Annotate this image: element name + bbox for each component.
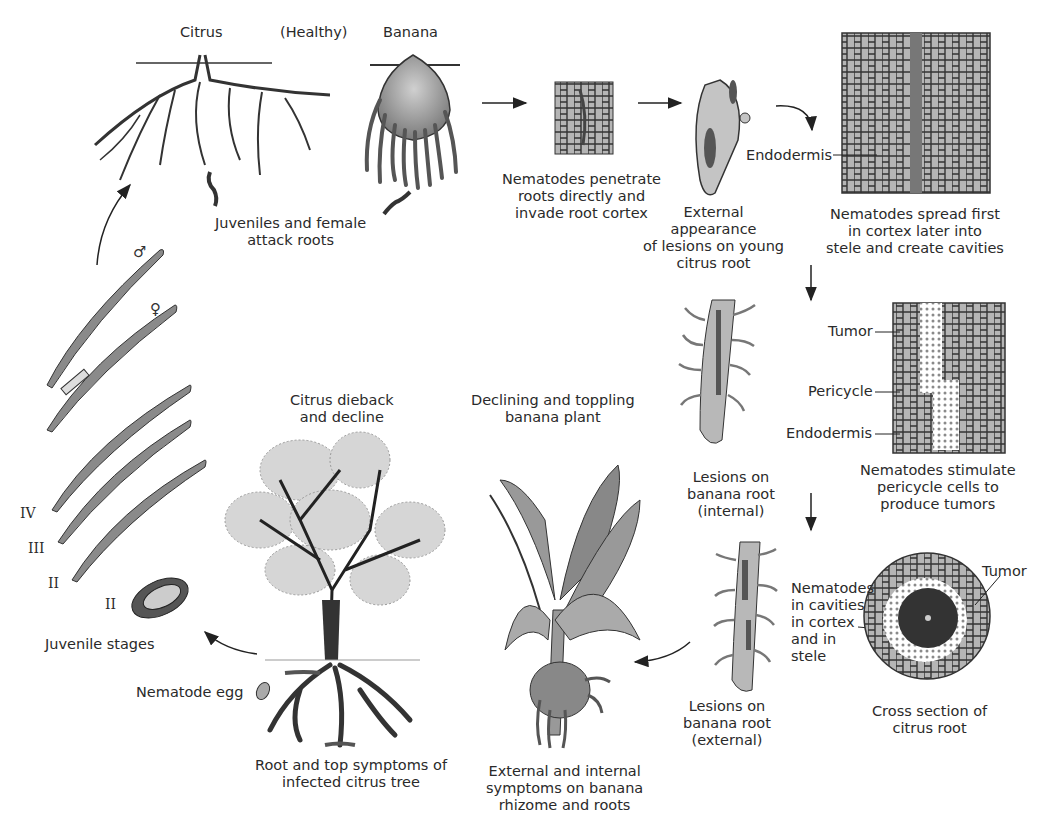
- penetrate-caption: Nematodes penetrate roots directly and i…: [502, 171, 661, 222]
- juvenile-stages-caption: Juvenile stages: [45, 636, 155, 653]
- citrus-symptoms-caption: Root and top symptoms of infected citrus…: [255, 757, 447, 791]
- external-lesion-caption: External appearance of lesions on young …: [643, 204, 784, 272]
- endodermis-label-1: Endodermis: [746, 147, 832, 164]
- healthy-citrus-roots: [95, 55, 330, 180]
- stage-ii-egg-label: II: [105, 596, 116, 612]
- nematode-egg-label: Nematode egg: [136, 684, 243, 701]
- banana-root-internal: [679, 300, 755, 443]
- juvenile-nematode: [209, 172, 217, 206]
- cavities-caption: Nematodes in cavities in cortex and in s…: [791, 580, 874, 665]
- arrow-6: [635, 642, 690, 662]
- arrow-7: [205, 632, 257, 654]
- tumor-label-2: Tumor: [982, 563, 1027, 580]
- arrow-3: [776, 106, 812, 130]
- stimulate-caption: Nematodes stimulate pericycle cells to p…: [860, 462, 1016, 513]
- stage-iv-label: IV: [20, 505, 36, 521]
- citrus-root-cross-section: [864, 553, 990, 679]
- lesion-external-caption: Lesions on banana root (external): [683, 698, 771, 749]
- male-symbol: ♂: [133, 243, 146, 261]
- root-cortex-tissue: [555, 82, 613, 154]
- stage-ii-label: II: [48, 575, 59, 591]
- healthy-banana-rhizome: [367, 55, 460, 214]
- banana-label: Banana: [383, 24, 438, 41]
- pericycle-label: Pericycle: [808, 383, 873, 400]
- nematode-egg-juvenile: [126, 570, 195, 626]
- endodermis-label-2: Endodermis: [786, 425, 872, 442]
- nematode-egg-icon: [254, 680, 272, 701]
- young-citrus-root: [696, 80, 750, 195]
- juvenile-nematodes: [47, 250, 206, 582]
- female-symbol: ♀: [150, 300, 161, 318]
- banana-root-external: [714, 542, 777, 691]
- declining-banana-plant: [490, 465, 640, 748]
- citrus-label: Citrus: [180, 24, 223, 41]
- cross-section-caption: Cross section of citrus root: [872, 703, 987, 737]
- lesion-internal-caption: Lesions on banana root (internal): [687, 469, 775, 520]
- stage-iii-label: III: [28, 540, 45, 556]
- spread-caption: Nematodes spread first in cortex later i…: [826, 206, 1004, 257]
- citrus-dieback-title: Citrus dieback and decline: [290, 392, 394, 426]
- banana-decline-title: Declining and toppling banana plant: [471, 392, 635, 426]
- banana-symptoms-caption: External and internal symptoms on banana…: [486, 763, 643, 814]
- attack-roots-caption: Juveniles and female attack roots: [215, 215, 366, 249]
- healthy-label: (Healthy): [280, 24, 348, 41]
- arrow-8: [97, 185, 130, 265]
- tumor-label-1: Tumor: [828, 323, 873, 340]
